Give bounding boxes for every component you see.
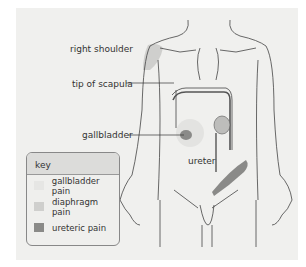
swatch-icon: [34, 181, 44, 190]
key-item-label: diaphragm pain: [52, 197, 119, 217]
swatch-icon: [34, 202, 44, 211]
label-ureter: ureter: [188, 156, 216, 166]
label-right-shoulder: right shoulder: [70, 44, 133, 54]
key-legend: key gallbladder pain diaphragm pain uret…: [26, 152, 120, 246]
label-gallbladder: gallbladder: [82, 130, 133, 140]
key-item-gallbladder-pain: gallbladder pain: [27, 175, 119, 196]
key-title: key: [27, 153, 119, 175]
key-item-ureteric-pain: ureteric pain: [27, 217, 119, 238]
label-tip-of-scapula: tip of scapula: [72, 79, 133, 89]
key-item-label: gallbladder pain: [52, 176, 119, 196]
swatch-icon: [34, 223, 44, 232]
key-item-diaphragm-pain: diaphragm pain: [27, 196, 119, 217]
key-item-label: ureteric pain: [52, 223, 106, 233]
